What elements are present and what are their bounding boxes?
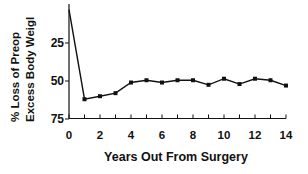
data-point-marker	[160, 81, 164, 85]
x-tick-label-10: 10	[214, 129, 234, 141]
data-point-marker	[176, 78, 180, 82]
data-point-marker	[145, 78, 149, 82]
y-axis-label: % Loss of Preop Excess Body Weigl	[0, 0, 50, 130]
y-tick-label-50: 50	[36, 74, 64, 88]
data-point-marker	[98, 94, 102, 98]
x-tick-label-8: 8	[183, 129, 203, 141]
data-point-marker	[253, 77, 257, 81]
x-tick-label-4: 4	[121, 129, 141, 141]
x-tick-label-2: 2	[90, 129, 110, 141]
weight-loss-chart: % Loss of Preop Excess Body Weigl 25 50 …	[0, 0, 308, 174]
x-tick-label-0: 0	[59, 129, 79, 141]
x-tick-label-6: 6	[152, 129, 172, 141]
y-axis-label-line-1: % Loss of Preop	[9, 32, 21, 122]
data-point-marker	[129, 81, 133, 85]
data-point-marker	[207, 83, 211, 87]
x-tick-label-14: 14	[276, 129, 296, 141]
data-point-marker	[238, 82, 242, 86]
data-point-marker	[191, 78, 195, 82]
data-point-marker	[284, 84, 288, 88]
data-point-marker	[222, 77, 226, 81]
x-axis-label: Years Out From Surgery	[100, 150, 252, 164]
data-line	[69, 10, 286, 100]
y-tick-label-25: 25	[36, 36, 64, 50]
x-tick-label-12: 12	[245, 129, 265, 141]
data-point-marker	[269, 78, 273, 82]
y-tick-label-75: 75	[36, 112, 64, 126]
data-point-marker	[83, 97, 87, 101]
y-axis-label-line-2: Excess Body Weigl	[24, 17, 36, 122]
data-point-marker	[114, 91, 118, 95]
